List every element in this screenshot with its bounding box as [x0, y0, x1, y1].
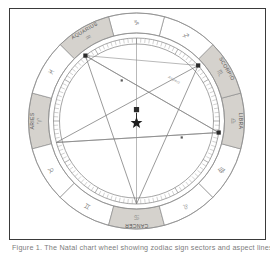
- chart-marker-node-upper-right[interactable]: [196, 63, 200, 67]
- degree-tick: [200, 167, 204, 170]
- degree-tick: [210, 149, 214, 151]
- degree-tick: [61, 87, 65, 89]
- chart-marker-point-inner-right[interactable]: [181, 136, 183, 138]
- degree-tick: [119, 40, 120, 44]
- degree-tick: [91, 51, 93, 55]
- degree-tick: [59, 149, 63, 151]
- degree-tick: [183, 54, 186, 58]
- sign-name-cancer: CANCER: [125, 223, 149, 229]
- degree-tick: [99, 191, 101, 195]
- chart-marker-point-inner-upper[interactable]: [121, 79, 123, 81]
- degree-tick: [81, 179, 84, 182]
- aspect-line-horizontal: [56, 133, 218, 143]
- degree-tick: [55, 104, 59, 105]
- degree-tick: [165, 44, 167, 48]
- degree-tick: [186, 56, 189, 59]
- degree-tick: [172, 191, 174, 195]
- degree-tick: [198, 170, 201, 173]
- degree-tick: [61, 153, 65, 155]
- degree-tick: [91, 187, 93, 191]
- degree-tick: [107, 194, 109, 198]
- degree-tick: [175, 49, 178, 54]
- degree-tick: [179, 51, 181, 55]
- degree-tick: [172, 47, 174, 51]
- degree-tick: [84, 182, 87, 185]
- aspect-line: [137, 65, 199, 204]
- degree-tick: [95, 49, 98, 54]
- aspect-line: [56, 65, 198, 142]
- degree-tick: [202, 164, 206, 166]
- degree-tick: [103, 193, 105, 197]
- degree-tick: [206, 157, 210, 159]
- degree-tick: [124, 199, 125, 203]
- degree-tick: [88, 185, 91, 189]
- zodiac-glyph-aries-icon: ♈: [36, 118, 44, 124]
- degree-tick: [107, 44, 109, 48]
- degree-tick: [149, 39, 150, 43]
- chart-frame: Aspect ♈♉♊♋♌♍♎♏♐♑♒♓ ARIESCANCERLIBRASCOR…: [9, 8, 266, 240]
- degree-tick: [111, 196, 112, 200]
- degree-tick: [157, 41, 158, 45]
- degree-tick: [161, 42, 162, 46]
- degree-tick: [189, 179, 192, 182]
- degree-tick: [203, 80, 208, 83]
- degree-tick: [202, 76, 206, 78]
- degree-tick: [69, 72, 73, 75]
- degree-tick: [65, 160, 70, 163]
- sign-name-libra: LIBRA: [238, 113, 244, 130]
- degree-tick: [78, 62, 81, 65]
- degree-tick: [203, 160, 208, 163]
- degree-tick: [165, 194, 167, 198]
- degree-tick: [208, 87, 212, 89]
- center-square-icon: [134, 107, 139, 112]
- degree-tick: [186, 182, 189, 185]
- degree-tick: [208, 153, 212, 155]
- figure-caption: Figure 1. The Natal chart wheel showing …: [12, 244, 270, 252]
- degree-tick: [119, 198, 120, 202]
- chart-marker-node-upper-left[interactable]: [83, 53, 87, 57]
- degree-tick: [175, 188, 178, 193]
- degree-tick: [55, 108, 59, 109]
- degree-tick: [179, 187, 181, 191]
- degree-tick: [168, 193, 170, 197]
- zodiac-glyph-cancer-icon: ♋: [133, 213, 139, 221]
- degree-tick: [210, 91, 214, 93]
- degree-tick: [55, 133, 59, 134]
- degree-tick: [55, 137, 59, 138]
- degree-tick: [67, 76, 71, 78]
- degree-tick: [168, 45, 170, 49]
- zodiac-wheel-chart[interactable]: Aspect ♈♉♊♋♌♍♎♏♐♑♒♓ ARIESCANCERLIBRASCOR…: [10, 9, 263, 237]
- degree-tick: [124, 39, 125, 43]
- degree-tick: [211, 145, 215, 146]
- degree-tick: [111, 42, 112, 46]
- sign-name-aries: ARIES: [29, 112, 35, 129]
- degree-tick: [63, 83, 67, 85]
- degree-tick: [192, 177, 195, 180]
- degree-tick: [200, 72, 204, 75]
- degree-tick: [157, 197, 158, 201]
- aspect-line: [85, 56, 198, 66]
- degree-tick: [212, 100, 216, 101]
- degree-tick: [206, 83, 210, 85]
- degree-tick: [153, 40, 154, 44]
- degree-tick: [69, 167, 73, 170]
- degree-tick: [58, 145, 62, 146]
- degree-tick: [161, 196, 162, 200]
- degree-tick: [63, 157, 67, 159]
- degree-tick: [115, 197, 116, 201]
- degree-tick: [59, 91, 63, 93]
- degree-tick: [153, 198, 154, 202]
- degree-tick: [212, 141, 216, 142]
- degree-tick: [65, 80, 70, 83]
- degree-tick: [99, 47, 101, 51]
- zodiac-glyph-capricorn-icon: ♑: [133, 19, 139, 27]
- degree-tick: [72, 69, 75, 72]
- degree-tick: [75, 174, 78, 177]
- degree-tick: [75, 65, 78, 68]
- aspect-line: [85, 56, 136, 204]
- degree-tick: [189, 59, 192, 62]
- chart-marker-node-right[interactable]: [217, 130, 221, 134]
- degree-tick: [78, 177, 81, 180]
- degree-tick: [115, 41, 116, 45]
- zodiac-glyph-libra-icon: ♎: [229, 118, 237, 124]
